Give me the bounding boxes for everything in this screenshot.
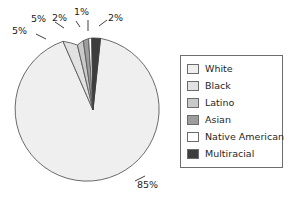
pie-slices: [15, 38, 159, 181]
leader-line-black: [36, 34, 46, 39]
legend-label-white: White: [205, 64, 233, 74]
pct-label-black: 5%: [12, 26, 27, 36]
pct-label-latino: 5%: [31, 14, 46, 24]
legend-item-white: White: [187, 60, 282, 77]
legend-item-black: Black: [187, 77, 282, 94]
legend-label-multiracial: Multiracial: [205, 149, 254, 159]
leader-line-asian: [76, 21, 80, 27]
legend-swatch-native-american: [187, 132, 199, 142]
pct-label-native-american: 1%: [74, 7, 89, 17]
legend-item-multiracial: Multiracial: [187, 145, 282, 162]
legend: White Black Latino Asian Native American…: [180, 55, 283, 168]
pct-label-asian: 2%: [52, 13, 67, 23]
legend-label-latino: Latino: [205, 98, 234, 108]
pie-chart-figure: 5% 5% 2% 1% 2% 85% White Black Latino As…: [0, 0, 299, 201]
legend-label-black: Black: [205, 81, 231, 91]
legend-label-asian: Asian: [205, 115, 231, 125]
legend-swatch-black: [187, 81, 199, 91]
legend-label-native-american: Native American: [205, 132, 284, 142]
legend-swatch-latino: [187, 98, 199, 108]
legend-swatch-multiracial: [187, 149, 199, 159]
legend-item-asian: Asian: [187, 111, 282, 128]
legend-swatch-asian: [187, 115, 199, 125]
legend-swatch-white: [187, 64, 199, 74]
pct-label-white: 85%: [137, 180, 158, 190]
legend-item-native-american: Native American: [187, 128, 282, 145]
pct-label-multiracial: 2%: [108, 13, 123, 23]
legend-item-latino: Latino: [187, 94, 282, 111]
leader-line-multiracial: [99, 20, 107, 26]
